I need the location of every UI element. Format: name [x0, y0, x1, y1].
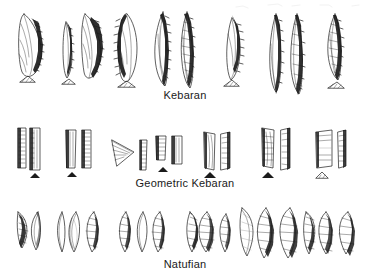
natufian-group-6 [304, 212, 355, 256]
kebaran-group-2 [62, 14, 104, 84]
geokeb-group-3 [112, 140, 147, 170]
microlith-typology-figure: Kebaran [0, 0, 370, 278]
natufian-group-5 [240, 208, 298, 258]
row-label-kebaran: Kebaran [0, 89, 370, 101]
geokeb-group-4 [156, 136, 182, 172]
row-label-geometric-kebaran: Geometric Kebaran [0, 177, 370, 189]
natufian-artifact-plate [0, 204, 370, 260]
row-kebaran: Kebaran [0, 0, 370, 110]
kebaran-group-6 [270, 14, 305, 95]
row-label-natufian: Natufian [0, 258, 370, 270]
geokeb-group-1 [18, 128, 40, 178]
geokeb-group-7 [316, 130, 346, 178]
row-geometric-kebaran: Geometric Kebaran [0, 122, 370, 200]
geokeb-group-6 [262, 128, 290, 178]
kebaran-group-5 [224, 15, 244, 86]
geometric-kebaran-artifact-plate [0, 122, 370, 184]
natufian-group-2 [58, 210, 100, 252]
natufian-group-3 [119, 210, 165, 252]
kebaran-group-1 [19, 14, 44, 82]
kebaran-group-4 [155, 12, 195, 88]
kebaran-group-3 [114, 14, 137, 87]
row-natufian: Natufian [0, 204, 370, 278]
geokeb-group-2 [66, 130, 91, 177]
kebaran-artifact-plate [0, 0, 370, 95]
kebaran-group-7 [328, 14, 344, 88]
natufian-group-4 [187, 212, 231, 252]
geokeb-group-5 [204, 132, 230, 178]
natufian-group-1 [17, 212, 41, 250]
